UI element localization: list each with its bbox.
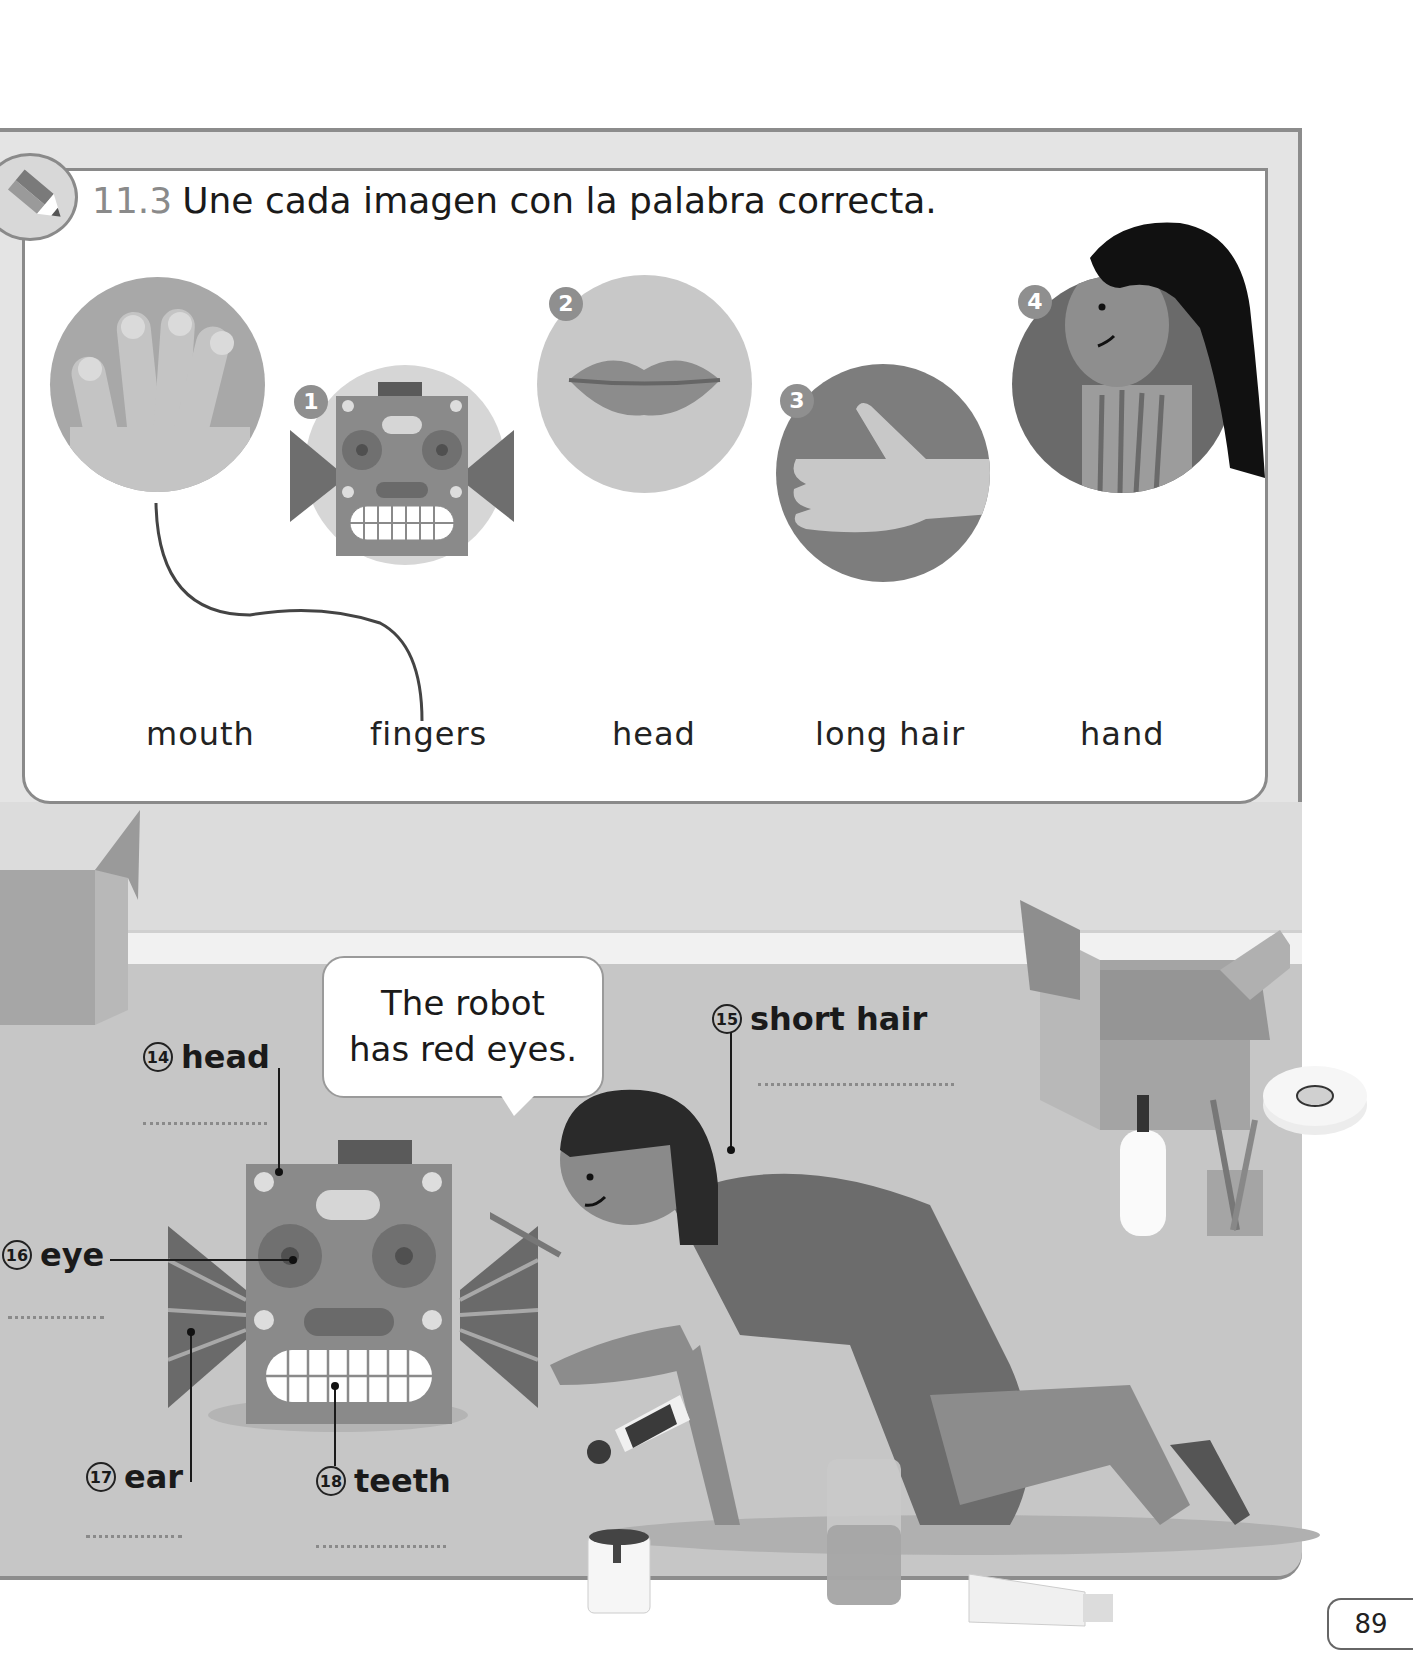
picture-badge-4: 4: [1018, 285, 1052, 319]
exercise-instruction: Une cada imagen con la palabra correcta.: [182, 180, 937, 221]
label-text-short-hair: short hair: [750, 1000, 927, 1038]
paint-pot-icon: [585, 1525, 655, 1615]
answer-line-short-hair[interactable]: [758, 1083, 954, 1086]
label-ear: 17 ear: [86, 1458, 183, 1496]
pin-teeth: [331, 1382, 339, 1390]
pin-eye: [289, 1256, 297, 1264]
paint-tube-open-icon: [585, 1390, 695, 1470]
leader-head: [278, 1068, 280, 1172]
answer-line-ear[interactable]: [86, 1535, 182, 1538]
page-number: 89: [1327, 1598, 1413, 1650]
speech-line-2: has red eyes.: [324, 1026, 602, 1072]
label-head: 14 head: [143, 1038, 270, 1076]
speech-line-1: The robot: [324, 980, 602, 1026]
girl-painting-icon: [490, 1085, 1330, 1585]
word-head[interactable]: head: [612, 715, 696, 753]
label-text-teeth: teeth: [354, 1462, 451, 1500]
word-fingers[interactable]: fingers: [370, 715, 487, 753]
label-text-ear: ear: [124, 1458, 183, 1496]
speech-bubble-tail: [500, 1094, 536, 1116]
water-jar-icon: [825, 1455, 905, 1610]
label-number-17: 17: [86, 1462, 116, 1492]
picture-fingers[interactable]: [50, 277, 265, 492]
long-hair-icon: [1080, 218, 1270, 488]
match-line: [140, 495, 440, 725]
robot-icon: [168, 1140, 538, 1430]
pin-short-hair: [727, 1146, 735, 1154]
speech-bubble: The robot has red eyes.: [322, 956, 604, 1098]
label-eye: 16 eye: [2, 1236, 104, 1274]
paint-tube-icon: [965, 1570, 1115, 1630]
leader-ear: [190, 1332, 192, 1482]
pin-ear: [187, 1328, 195, 1336]
label-teeth: 18 teeth: [316, 1462, 451, 1500]
label-number-14: 14: [143, 1042, 173, 1072]
pin-head: [275, 1168, 283, 1176]
leader-eye: [110, 1259, 292, 1261]
leader-teeth: [334, 1386, 336, 1466]
exercise-title: 11.3Une cada imagen con la palabra corre…: [92, 180, 937, 221]
leader-short-hair: [730, 1032, 732, 1150]
word-hand[interactable]: hand: [1080, 715, 1164, 753]
label-number-15: 15: [712, 1004, 742, 1034]
label-number-16: 16: [2, 1240, 32, 1270]
word-mouth[interactable]: mouth: [146, 715, 255, 753]
answer-line-eye[interactable]: [8, 1316, 104, 1319]
label-text-head: head: [181, 1038, 270, 1076]
label-short-hair: 15 short hair: [712, 1000, 927, 1038]
cardboard-box-left: [0, 810, 150, 1040]
word-long-hair[interactable]: long hair: [815, 715, 965, 753]
exercise-number: 11.3: [92, 180, 172, 221]
label-text-eye: eye: [40, 1236, 104, 1274]
picture-badge-1: 1: [294, 385, 328, 419]
label-number-18: 18: [316, 1466, 346, 1496]
answer-line-teeth[interactable]: [316, 1545, 446, 1548]
picture-badge-2: 2: [549, 287, 583, 321]
picture-badge-3: 3: [780, 384, 814, 418]
answer-line-head[interactable]: [143, 1122, 267, 1125]
